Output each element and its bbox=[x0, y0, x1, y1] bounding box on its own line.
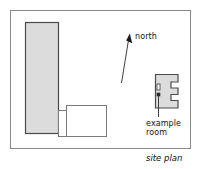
example-room-label-line2: room bbox=[146, 128, 181, 137]
example-room-label-line1: example bbox=[146, 119, 181, 128]
north-arrow-head-icon bbox=[126, 34, 132, 44]
site-plan-drawing bbox=[0, 0, 204, 169]
room-door-marker bbox=[157, 84, 160, 90]
north-arrow-shaft bbox=[122, 40, 129, 83]
connector-wing bbox=[59, 111, 67, 137]
example-room-label: example room bbox=[146, 119, 181, 137]
south-wing bbox=[67, 106, 107, 137]
north-label: north bbox=[135, 32, 157, 41]
figure-caption: site plan bbox=[146, 153, 182, 163]
main-building-block bbox=[26, 23, 59, 134]
site-plan-figure: north example room site plan bbox=[0, 0, 204, 169]
